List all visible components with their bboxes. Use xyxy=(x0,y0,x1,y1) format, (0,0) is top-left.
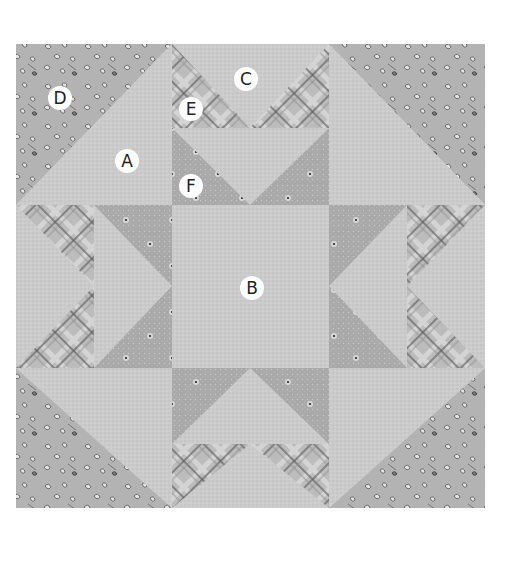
corner-top-left xyxy=(16,44,172,205)
edge-right xyxy=(329,205,485,368)
label-d: D xyxy=(48,86,72,110)
label-a: A xyxy=(115,149,139,173)
quilt-block: A B C D E F xyxy=(0,0,518,562)
label-e: E xyxy=(179,97,203,121)
corner-bottom-right xyxy=(329,368,485,508)
label-f: F xyxy=(179,174,203,198)
svg-text:F: F xyxy=(186,176,196,196)
corner-top-right xyxy=(329,44,485,205)
edge-bottom xyxy=(172,368,329,508)
label-c: C xyxy=(234,67,258,91)
label-b: B xyxy=(240,276,264,300)
svg-text:D: D xyxy=(53,88,66,108)
svg-text:E: E xyxy=(186,99,197,119)
svg-text:C: C xyxy=(240,69,252,89)
svg-text:A: A xyxy=(121,151,133,171)
svg-text:B: B xyxy=(246,278,258,298)
edge-left xyxy=(16,205,172,368)
corner-bottom-left xyxy=(16,368,172,508)
